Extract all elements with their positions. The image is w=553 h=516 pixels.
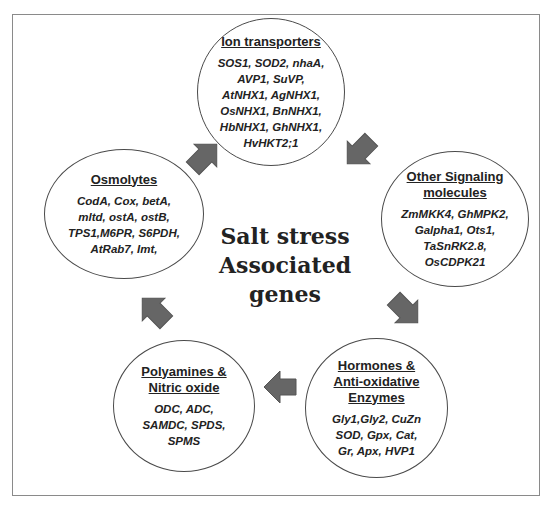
node-hormones-antioxidative-enzymes: Hormones & Anti-oxidative Enzymes Gly1,G… bbox=[305, 338, 448, 478]
node-genes: SOS1, SOD2, nhaA, AVP1, SuVP, AtNHX1, Ag… bbox=[218, 55, 325, 151]
arrow-up-right-icon bbox=[181, 134, 227, 180]
node-genes: Gly1,Gly2, CuZn SOD, Gpx, Cat, Gr, Apx, … bbox=[332, 411, 421, 459]
node-title: Polyamines & Nitric oxide bbox=[141, 364, 226, 396]
node-other-signaling-molecules: Other Signaling molecules ZmMKK4, GhMPK2… bbox=[381, 151, 529, 287]
arrow-up-left-icon bbox=[132, 288, 178, 334]
node-genes: ZmMKK4, GhMPK2, Galpha1, Ots1, TaSnRK2.8… bbox=[401, 206, 508, 270]
node-title: Other Signaling molecules bbox=[407, 169, 504, 201]
node-polyamines-nitric-oxide: Polyamines & Nitric oxide ODC, ADC, SAMD… bbox=[113, 340, 255, 472]
node-osmolytes: Osmolytes CodA, Cox, betA, mltd, ostA, o… bbox=[44, 149, 204, 279]
node-title: Hormones & Anti-oxidative Enzymes bbox=[334, 358, 420, 406]
arrow-down-left-icon bbox=[382, 287, 428, 333]
node-title: Ion transporters bbox=[221, 34, 321, 50]
node-genes: CodA, Cox, betA, mltd, ostA, ostB, TPS1,… bbox=[68, 193, 180, 257]
node-genes: ODC, ADC, SAMDC, SPDS, SPMS bbox=[142, 401, 225, 449]
node-title: Osmolytes bbox=[91, 172, 157, 188]
arrow-left-icon bbox=[262, 368, 300, 406]
center-title: Salt stress Associated genes bbox=[195, 222, 375, 309]
arrow-down-right-icon bbox=[337, 128, 383, 174]
